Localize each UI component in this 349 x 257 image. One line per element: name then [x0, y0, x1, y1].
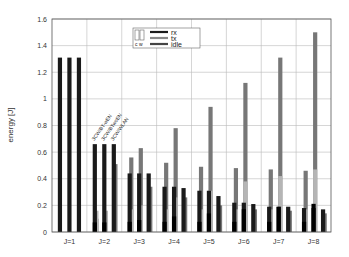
rx-base-bar: [172, 216, 176, 232]
y-tick-label: 1.6: [37, 16, 47, 23]
y-tick-label: 0.2: [37, 202, 47, 209]
rx-base-bar: [102, 222, 106, 232]
y-tick-label: 1: [43, 95, 47, 102]
x-tick-label: J=3: [133, 238, 145, 245]
rx-base-bar: [277, 207, 281, 232]
rx-base-bar: [128, 222, 132, 232]
legend-icon-label: c w: [135, 41, 143, 47]
y-axis-ticks: 00.20.40.60.811.21.41.6: [37, 16, 47, 236]
rx-base-bar: [242, 209, 246, 232]
rx-base-bar: [302, 222, 306, 232]
rx-base-bar: [207, 213, 211, 232]
configuration-annotation: 3CW/BT-wEN3CW/BTwoEN3CW/WLAN: [90, 112, 130, 142]
legend: c w rxtxidle: [133, 28, 200, 48]
rx-base-bar: [311, 204, 315, 232]
x-tick-label: J=4: [168, 238, 180, 245]
rx-bar: [102, 144, 106, 232]
y-tick-label: 0.6: [37, 149, 47, 156]
rx-base-bar: [267, 222, 271, 232]
y-tick-label: 0: [43, 229, 47, 236]
rx-bar: [286, 207, 290, 232]
legend-label: idle: [171, 41, 182, 48]
rx-base-bar: [162, 222, 166, 232]
y-tick-label: 1.2: [37, 69, 47, 76]
rx-bar: [251, 204, 255, 232]
rx-base-bar: [197, 222, 201, 232]
rx-bar: [216, 196, 220, 232]
rx-bar: [112, 144, 116, 232]
x-tick-label: J=7: [273, 238, 285, 245]
y-tick-label: 1.4: [37, 42, 47, 49]
rx-base-bar: [232, 222, 236, 232]
rx-bar: [93, 144, 97, 232]
y-tick-label: 0.4: [37, 175, 47, 182]
rx-bar: [181, 188, 185, 232]
rx-bar: [67, 58, 71, 232]
x-tick-label: J=8: [308, 238, 320, 245]
x-tick-label: J=2: [99, 238, 111, 245]
x-axis-ticks: J=1J=2J=3J=4J=5J=6J=7J=8: [64, 238, 320, 245]
y-axis-label: energy [J]: [6, 107, 15, 142]
rx-bar: [147, 173, 151, 232]
x-tick-label: J=6: [238, 238, 250, 245]
rx-bar: [58, 58, 62, 232]
rx-bar: [321, 209, 325, 232]
rx-bar: [77, 58, 81, 232]
x-tick-label: J=1: [64, 238, 76, 245]
y-tick-label: 0.8: [37, 122, 47, 129]
rx-base-bar: [137, 220, 141, 232]
energy-bar-chart: 00.20.40.60.811.21.41.6 J=1J=2J=3J=4J=5J…: [0, 0, 349, 257]
x-tick-label: J=5: [203, 238, 215, 245]
rx-base-bar: [93, 222, 97, 232]
